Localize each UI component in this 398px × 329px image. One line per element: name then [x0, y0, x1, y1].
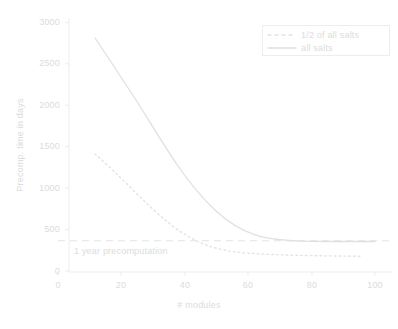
chart-container: 3000 2500 2000 1500 1000 500 0 0 20 40 6…: [0, 0, 398, 329]
x-tick-label-60: 60: [233, 280, 263, 290]
y-tick-label-2500: 2500: [22, 58, 60, 68]
y-tick-label-0: 0: [22, 266, 60, 276]
y-tick-label-500: 500: [22, 224, 60, 234]
x-axis-ticks: [58, 272, 375, 276]
y-axis-title: Precomp. time in days: [15, 85, 25, 205]
x-tick-label-40: 40: [170, 280, 200, 290]
legend-label-half-of-all-salts: 1/2 of all salts: [301, 30, 359, 40]
annotation-1-year-precomputation: 1 year precomputation: [74, 246, 168, 256]
chart-legend: 1/2 of all salts all salts: [262, 25, 390, 56]
x-tick-label-100: 100: [360, 280, 390, 290]
series-line-all-salts: [95, 38, 375, 242]
legend-swatch-dotted-line: [267, 30, 297, 40]
legend-entry-all-salts: all salts: [267, 41, 333, 54]
legend-entry-half-of-all-salts: 1/2 of all salts: [267, 28, 359, 41]
legend-label-all-salts: all salts: [301, 43, 333, 53]
y-tick-label-1500: 1500: [22, 141, 60, 151]
y-tick-label-2000: 2000: [22, 100, 60, 110]
x-tick-label-80: 80: [297, 280, 327, 290]
y-tick-label-1000: 1000: [22, 183, 60, 193]
legend-swatch-solid-line: [267, 43, 297, 53]
x-tick-label-20: 20: [106, 280, 136, 290]
y-tick-label-3000: 3000: [22, 17, 60, 27]
x-axis-title: # modules: [0, 300, 398, 310]
y-axis-ticks: [65, 22, 69, 271]
x-tick-label-0: 0: [43, 280, 73, 290]
